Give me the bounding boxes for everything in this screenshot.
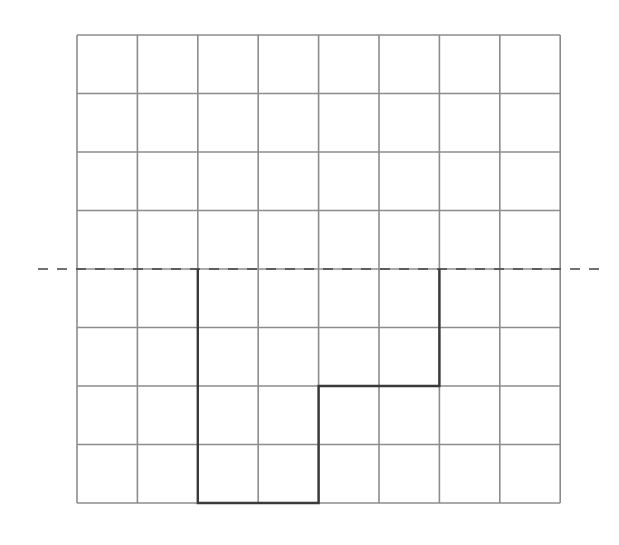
grid-diagram bbox=[0, 0, 619, 545]
